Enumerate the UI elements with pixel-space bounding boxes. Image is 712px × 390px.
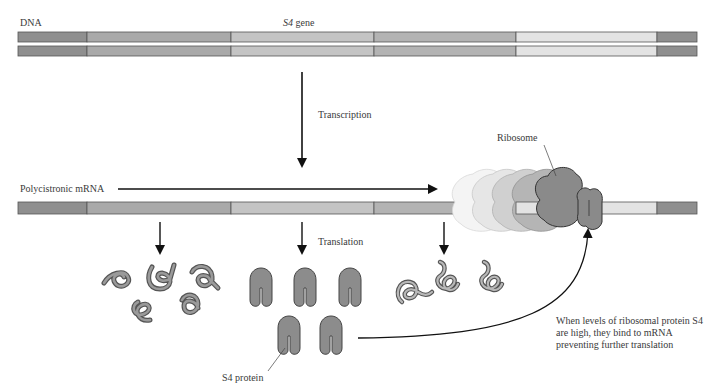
s4-proteins <box>250 268 361 354</box>
s4-protein-icon <box>339 268 361 306</box>
s4-gene-label: S4 gene <box>283 17 314 28</box>
polycistronic-mrna-label: Polycistronic mRNA <box>20 183 104 194</box>
s4-protein-icon <box>320 316 342 354</box>
s4-protein-label: S4 protein <box>222 372 263 383</box>
ribosome-label: Ribosome <box>497 132 538 143</box>
dna-strand <box>18 32 697 56</box>
dna-top-strand <box>18 32 697 42</box>
feedback-arrow <box>358 230 588 338</box>
ribosome-icon <box>535 167 602 229</box>
protein-coils-group-1 <box>104 265 218 320</box>
dna-label: DNA <box>20 17 42 28</box>
translation-label: Translation <box>318 236 363 247</box>
s4-protein-icon <box>278 316 300 354</box>
dna-bottom-strand <box>18 46 697 56</box>
feedback-note: When levels of ribosomal protein S4 are … <box>556 315 706 351</box>
s4-protein-icon <box>250 268 272 306</box>
s4-protein-leader-line <box>268 348 285 371</box>
s4-protein-icon <box>294 268 316 306</box>
protein-coils-group-3 <box>398 262 502 302</box>
gene-name: S4 <box>283 17 293 28</box>
gene-suffix: gene <box>293 17 314 28</box>
transcription-label: Transcription <box>318 109 372 120</box>
